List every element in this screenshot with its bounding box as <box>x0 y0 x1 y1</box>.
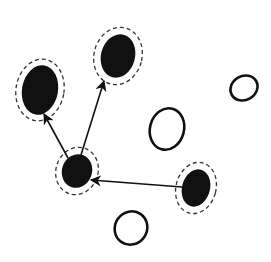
diagram-canvas <box>0 0 271 262</box>
arrow-c-to-b <box>81 81 104 155</box>
filled-node-c <box>57 150 97 192</box>
node-layer <box>18 30 262 251</box>
open-node-g <box>108 205 154 251</box>
arrow-d-to-c <box>91 180 182 187</box>
open-node-e <box>145 104 189 153</box>
filled-node-b <box>96 30 140 81</box>
arrow-c-to-a <box>44 114 68 158</box>
open-node-f <box>226 71 262 106</box>
filled-node-d <box>178 166 215 210</box>
filled-node-a <box>18 62 62 117</box>
